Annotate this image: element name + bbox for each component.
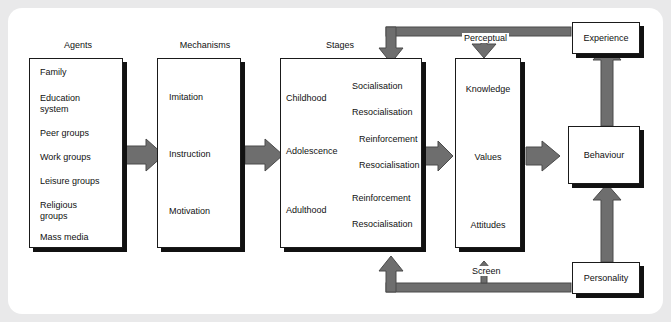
mechanisms-item-imitation: Imitation [169,92,203,103]
mechanisms-item-motivation: Motivation [169,206,210,217]
stage-name-adulthood: Adulthood [286,205,327,215]
behaviour-label: Behaviour [569,150,639,161]
stage-branch-resocialisation-3: Resocialisation [352,219,413,229]
arrow-stages-to-cognitive [424,141,453,171]
arrow-cognitive-to-behaviour [526,141,560,171]
stage-name-childhood: Childhood [286,93,327,103]
stage-branch-reinforcement-1: Reinforcement [359,134,418,144]
agents-item-religious-2: groups [40,211,68,222]
behaviour-box[interactable]: Behaviour [568,126,640,184]
stage-branch-reinforcement-2: Reinforcement [352,193,411,203]
agents-item-education-2: system [40,104,69,115]
stage-branch-resocialisation-2: Resocialisation [359,160,420,170]
experience-label: Experience [573,33,639,44]
arrow-personality-to-behaviour [593,184,621,262]
agents-item-leisure-groups: Leisure groups [40,176,100,187]
agents-item-education: Education [40,93,80,104]
agents-item-peer-groups: Peer groups [40,128,89,139]
column-title-mechanisms: Mechanisms [155,40,255,50]
agents-item-family: Family [40,67,67,78]
agents-item-work-groups: Work groups [40,152,91,163]
arrow-mechanisms-to-stages [245,139,283,171]
stage-name-adolescence: Adolescence [286,146,338,156]
diagram-canvas: Agents Mechanisms Stages Family Educatio… [0,0,671,322]
agents-item-mass-media: Mass media [40,232,89,243]
stage-branch-resocialisation-1: Resocialisation [352,107,413,117]
cognitive-level-attitudes: Attitudes [456,220,520,231]
column-title-agents: Agents [28,40,128,50]
cognitive-box[interactable]: Knowledge Values Attitudes [455,58,521,248]
mechanisms-item-instruction: Instruction [169,149,211,160]
experience-box[interactable]: Experience [572,22,640,54]
agents-item-religious: Religious [40,200,77,211]
mechanisms-box[interactable]: Imitation Instruction Motivation [157,58,241,248]
personality-box[interactable]: Personality [572,262,640,294]
feedback-label-perceptual: Perceptual [462,33,509,43]
agents-box[interactable]: Family Education system Peer groups Work… [29,58,123,248]
personality-label: Personality [573,273,639,284]
cognitive-level-knowledge: Knowledge [456,84,520,95]
stage-branch-socialisation: Socialisation [352,81,403,91]
cognitive-level-values: Values [456,152,520,163]
feedback-label-screen: Screen [470,266,503,276]
column-title-stages: Stages [290,40,390,50]
stages-box[interactable]: Childhood Socialisation Resocialisation … [280,58,422,248]
